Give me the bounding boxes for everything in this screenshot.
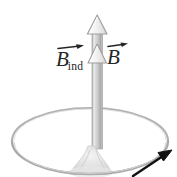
- field-arrowhead-middle: [88, 44, 107, 63]
- vector-arrow-icon: [107, 40, 135, 50]
- label-induced-field: Bind: [56, 49, 84, 70]
- conducting-loop-back: [12, 108, 168, 141]
- label-applied-field: B: [107, 47, 120, 68]
- vector-arrow-icon: [57, 42, 87, 52]
- motion-direction-arrow: [133, 150, 172, 176]
- diagram-svg: [0, 0, 177, 177]
- figure-canvas: Bind B: [0, 0, 177, 177]
- field-arrowhead-top: [87, 15, 107, 34]
- label-induced-field-subscript: ind: [68, 60, 83, 72]
